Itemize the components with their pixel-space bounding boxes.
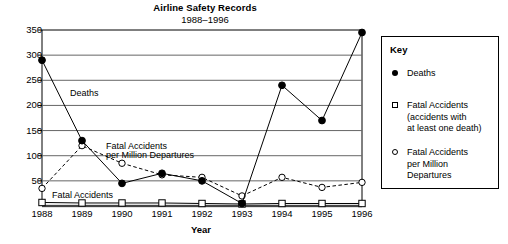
filled-circle-icon — [392, 70, 398, 76]
x-axis-tick-labels: 198819891990199119921993199419951996 — [0, 208, 372, 224]
y-tick-label: 50 — [4, 176, 42, 186]
x-tick-label: 1990 — [102, 208, 142, 219]
annotation-label: Deaths — [70, 88, 99, 99]
y-tick-label: 150 — [4, 126, 42, 136]
x-axis-title: Year — [42, 224, 360, 235]
legend-key-box: Key DeathsFatal Accidents(accidents with… — [381, 36, 499, 189]
y-tick-label: 250 — [4, 75, 42, 85]
x-tick-label: 1988 — [22, 208, 62, 219]
x-tick-label: 1989 — [62, 208, 102, 219]
x-tick-label: 1993 — [222, 208, 262, 219]
legend-item-label: Fatal Accidentsper MillionDepartures — [407, 147, 495, 182]
series-filled-circle — [39, 29, 366, 207]
legend-item-label: Deaths — [407, 68, 495, 80]
y-tick-label: 300 — [4, 50, 42, 60]
y-tick-label: 350 — [4, 25, 42, 35]
open-square-icon — [392, 102, 398, 108]
annotation-label: per Million Departures — [106, 150, 194, 161]
y-tick-label: 200 — [4, 100, 42, 110]
x-tick-label: 1996 — [342, 208, 382, 219]
x-tick-label: 1994 — [262, 208, 302, 219]
legend-item: Fatal Accidentsper MillionDepartures — [391, 147, 495, 182]
chart-screenshot: Airline Safety Records 1988–1996 5010015… — [0, 0, 508, 244]
legend-item: Deaths — [391, 68, 495, 80]
chart-title-block: Airline Safety Records 1988–1996 — [40, 2, 370, 26]
legend-item: Fatal Accidents(accidents withat least o… — [391, 100, 495, 135]
legend-title: Key — [390, 44, 407, 55]
legend-item-label: Fatal Accidents(accidents withat least o… — [407, 100, 495, 135]
plot-area: 50100150200250300350 1988198919901991199… — [0, 26, 372, 244]
chart-subtitle: 1988–1996 — [40, 14, 370, 26]
annotation-label: Fatal Accidents — [52, 190, 113, 201]
open-circle-icon — [392, 149, 398, 155]
y-axis-tick-labels: 50100150200250300350 — [0, 26, 42, 206]
x-tick-label: 1992 — [182, 208, 222, 219]
chart-title: Airline Safety Records — [40, 2, 370, 14]
plot-canvas — [0, 26, 372, 212]
x-tick-label: 1995 — [302, 208, 342, 219]
y-tick-label: 100 — [4, 151, 42, 161]
x-tick-label: 1991 — [142, 208, 182, 219]
